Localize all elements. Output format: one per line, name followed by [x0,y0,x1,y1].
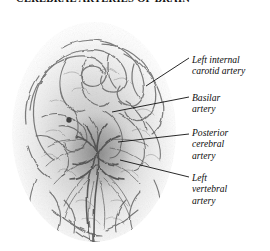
label-line: artery [192,195,227,206]
cerebral-angiogram-figure: CEREBRAL ARTERIES OF BRAIN [0,0,270,251]
label-line: vertebral [192,183,227,194]
label-line: artery [192,103,220,114]
label-line: Left [192,172,227,183]
label-left-internal-carotid-artery: Left internal carotid artery [192,54,245,77]
label-basilar-artery: Basilar artery [192,92,220,115]
label-line: cerebral [192,138,228,149]
label-line: Basilar [192,92,220,103]
label-left-vertebral-artery: Left vertebral artery [192,172,227,206]
angiogram-vessel-tree [6,14,186,251]
label-line: Posterior [192,127,228,138]
figure-caption-strip: CEREBRAL ARTERIES OF BRAIN [0,0,270,6]
angiogram-image [6,14,186,251]
label-line: artery [192,150,228,161]
label-line: carotid artery [192,65,245,76]
figure-caption: CEREBRAL ARTERIES OF BRAIN [16,0,190,4]
label-posterior-cerebral-artery: Posterior cerebral artery [192,127,228,161]
label-line: Left internal [192,54,245,65]
